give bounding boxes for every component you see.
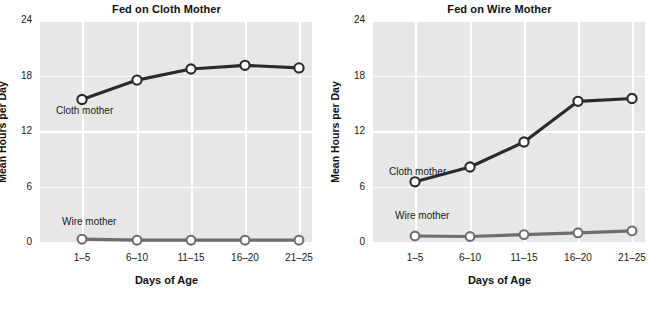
x-tick-4: 16–20 (215, 252, 275, 263)
x-axis-title: Days of Age (333, 274, 666, 286)
y-tick-12: 12 (341, 126, 365, 136)
x-tick-4: 16–20 (548, 252, 608, 263)
x-tick-5: 21–25 (269, 252, 329, 263)
x-tick-3: 11–15 (494, 252, 554, 263)
x-tick-2: 6–10 (107, 252, 167, 263)
x-tick-5: 21–25 (602, 252, 662, 263)
y-tick-6: 6 (8, 182, 32, 192)
y-tick-0: 0 (8, 237, 32, 247)
x-tick-3: 11–15 (161, 252, 221, 263)
y-tick-labels: 0 6 12 18 24 (373, 20, 645, 244)
y-tick-6: 6 (341, 182, 365, 192)
y-tick-12: 12 (8, 126, 32, 136)
two-panel-line-chart-figure: Fed on Cloth Mother Mean Hours per Day (0, 0, 666, 313)
x-tick-1: 1–5 (52, 252, 112, 263)
y-axis-title: Mean Hours per Day (0, 52, 8, 212)
y-tick-24: 24 (341, 15, 365, 25)
chart-panel-wire-mother: Fed on Wire Mother Mean Hours per Day (333, 0, 666, 313)
y-tick-24: 24 (8, 15, 32, 25)
x-axis-title: Days of Age (0, 274, 333, 286)
y-tick-18: 18 (341, 71, 365, 81)
panel-title: Fed on Wire Mother (333, 3, 666, 15)
chart-panel-cloth-mother: Fed on Cloth Mother Mean Hours per Day (0, 0, 333, 313)
y-tick-0: 0 (341, 237, 365, 247)
panel-title: Fed on Cloth Mother (0, 3, 333, 15)
x-tick-2: 6–10 (440, 252, 500, 263)
y-axis-title: Mean Hours per Day (329, 52, 341, 212)
x-tick-1: 1–5 (385, 252, 445, 263)
y-tick-labels: 0 6 12 18 24 (40, 20, 312, 244)
y-tick-18: 18 (8, 71, 32, 81)
